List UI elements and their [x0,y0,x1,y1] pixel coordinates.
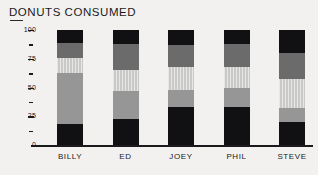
bar-segment-ed-4 [113,44,139,70]
bar-segment-billy-3 [57,58,83,73]
x-label-billy: BILLY [40,152,100,161]
bar-segment-billy-2 [57,73,83,125]
bar-segment-phil-4 [224,44,250,67]
x-label-steve: STEVE [262,152,318,161]
bar-segment-ed-1 [113,119,139,145]
x-axis-line [31,145,313,147]
x-label-ed: ED [96,152,156,161]
y-tick-mark [29,131,33,132]
y-tick-mark [28,88,34,89]
bar-joey [168,30,194,145]
bar-steve [279,30,305,145]
plot-area: 0255075100 BILLYEDJOEYPHILSTEVE [0,0,318,175]
bar-segment-billy-5 [57,30,83,43]
y-tick-mark [28,116,34,117]
y-tick-mark [29,73,33,74]
bar-segment-joey-5 [168,30,194,45]
bar-segment-steve-1 [279,122,305,145]
y-tick-mark [29,44,33,45]
bar-segment-joey-4 [168,45,194,67]
bar-segment-phil-3 [224,67,250,88]
bar-segment-joey-3 [168,67,194,90]
bar-segment-joey-1 [168,107,194,145]
bar-segment-phil-1 [224,107,250,145]
bar-segment-billy-4 [57,43,83,58]
bar-billy [57,30,83,145]
bar-segment-steve-2 [279,108,305,122]
bar-segment-steve-4 [279,53,305,79]
bar-segment-ed-5 [113,30,139,44]
y-tick-mark [28,59,34,60]
x-label-joey: JOEY [151,152,211,161]
x-label-phil: PHIL [207,152,267,161]
bar-segment-phil-2 [224,88,250,108]
y-tick-mark [28,30,34,31]
donuts-consumed-chart: DONUTS CONSUMED 0255075100 BILLYEDJOEYPH… [0,0,318,175]
bar-segment-joey-2 [168,90,194,107]
bar-segment-ed-3 [113,70,139,91]
bar-phil [224,30,250,145]
bar-segment-steve-5 [279,30,305,53]
bar-segment-phil-5 [224,30,250,44]
bar-segment-steve-3 [279,79,305,108]
y-tick-mark [29,102,33,103]
bar-segment-ed-2 [113,91,139,119]
bar-ed [113,30,139,145]
bar-segment-billy-1 [57,124,83,145]
